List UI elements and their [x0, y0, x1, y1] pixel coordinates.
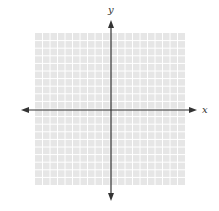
y-axis-bottom-arrow-icon [108, 193, 114, 201]
x-axis-right-arrow-icon [189, 107, 197, 113]
y-axis-top-arrow-icon [108, 20, 114, 28]
x-axis-label: x [202, 104, 208, 115]
y-axis-label: y [107, 4, 114, 15]
coordinate-plane: y x [0, 0, 219, 211]
x-axis-left-arrow-icon [21, 107, 29, 113]
grid-lines [35, 33, 185, 185]
